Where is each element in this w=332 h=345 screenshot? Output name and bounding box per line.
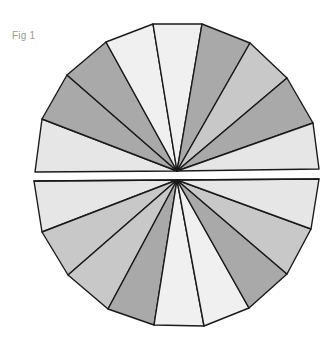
bottom-half [34,179,319,326]
top-half [35,24,319,172]
wedge-diagram [0,0,332,345]
